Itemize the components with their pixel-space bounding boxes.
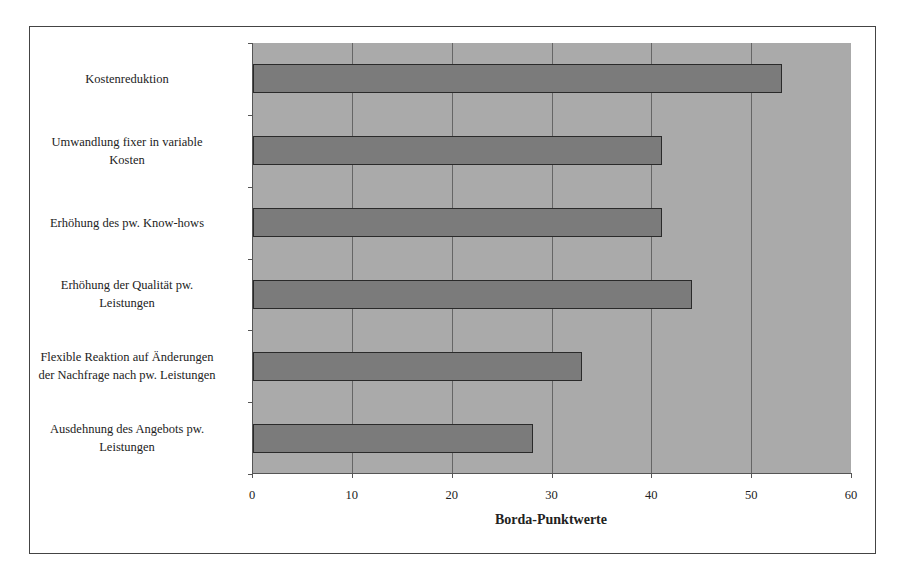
category-label: Erhöhung der Qualität pw. Leistungen xyxy=(12,276,242,312)
bar xyxy=(253,136,662,165)
x-tick-mark xyxy=(452,473,453,478)
x-tick-label: 60 xyxy=(831,488,871,503)
y-tick-mark xyxy=(248,187,253,188)
bar xyxy=(253,424,533,453)
x-tick-mark xyxy=(651,473,652,478)
bar xyxy=(253,64,782,93)
gridline xyxy=(352,43,353,473)
x-tick-mark xyxy=(851,473,852,478)
x-tick-label: 0 xyxy=(232,488,272,503)
gridline xyxy=(552,43,553,473)
category-label: Kostenreduktion xyxy=(12,70,242,88)
y-tick-mark xyxy=(248,474,253,475)
y-tick-mark xyxy=(248,259,253,260)
category-label: Flexible Reaktion auf Änderungen der Nac… xyxy=(12,348,242,384)
x-tick-label: 20 xyxy=(432,488,472,503)
y-tick-mark xyxy=(248,115,253,116)
category-label: Umwandlung fixer in variable Kosten xyxy=(12,133,242,169)
bar xyxy=(253,208,662,237)
category-label: Erhöhung des pw. Know-hows xyxy=(12,214,242,232)
gridline xyxy=(751,43,752,473)
x-tick-mark xyxy=(751,473,752,478)
plot-area xyxy=(252,43,851,474)
gridline xyxy=(452,43,453,473)
x-tick-label: 40 xyxy=(631,488,671,503)
x-tick-mark xyxy=(352,473,353,478)
bar xyxy=(253,352,582,381)
x-axis-title: Borda-Punktwerte xyxy=(451,512,651,528)
y-tick-mark xyxy=(248,330,253,331)
x-tick-label: 10 xyxy=(332,488,372,503)
x-tick-label: 30 xyxy=(532,488,572,503)
bar xyxy=(253,280,692,309)
y-tick-mark xyxy=(248,43,253,44)
gridline xyxy=(651,43,652,473)
x-tick-mark xyxy=(552,473,553,478)
category-label: Ausdehnung des Angebots pw. Leistungen xyxy=(12,420,242,456)
x-tick-label: 50 xyxy=(731,488,771,503)
y-tick-mark xyxy=(248,402,253,403)
